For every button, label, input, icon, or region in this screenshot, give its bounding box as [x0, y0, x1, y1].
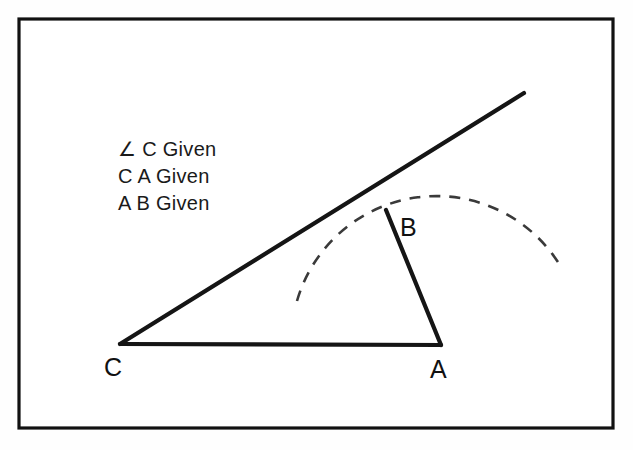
vertex-label-a: A: [430, 355, 447, 383]
vertex-label-b: B: [400, 213, 417, 241]
given-line-angle-c: ∠ C Given: [118, 138, 217, 160]
vertex-label-c: C: [104, 353, 122, 381]
figure-canvas: ∠ C Given C A Given A B Given C A B: [0, 0, 633, 450]
given-line-ab: A B Given: [118, 192, 210, 214]
given-line-ca: C A Given: [118, 165, 210, 187]
base-c-to-a: [120, 344, 441, 345]
geometry-figure: ∠ C Given C A Given A B Given C A B: [0, 0, 633, 450]
